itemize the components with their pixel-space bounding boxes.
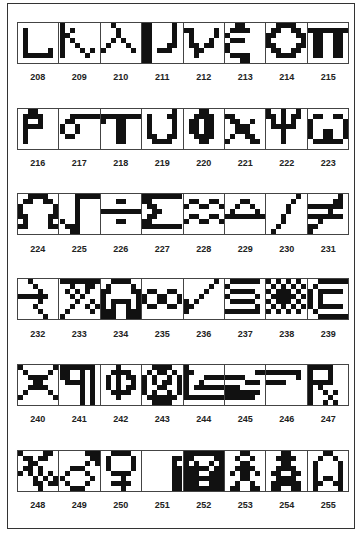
phi-alt-icon [101, 365, 141, 405]
code-label: 246 [266, 414, 308, 424]
copyright-icon [308, 279, 348, 319]
code-label: 211 [142, 72, 184, 82]
code-label-row: 216217218219220221222223 [17, 158, 349, 168]
glyph-cell-211 [142, 23, 183, 63]
code-label: 253 [225, 500, 267, 510]
glyph-cell-234 [101, 279, 142, 319]
glyph-cell-252 [184, 451, 225, 491]
code-label: 238 [266, 329, 308, 339]
checker-pattern-icon [266, 279, 306, 319]
glyph-cell-213 [225, 23, 266, 63]
logo-right-icon [266, 365, 306, 405]
logo-left-icon [184, 365, 224, 405]
code-label: 221 [225, 158, 267, 168]
glyph-cell-254 [266, 451, 307, 491]
glyph-cell-248 [18, 451, 59, 491]
glyph-cell-239 [308, 279, 348, 319]
glyph-row [17, 193, 349, 235]
code-label: 243 [142, 414, 184, 424]
code-label: 214 [266, 72, 308, 82]
code-label: 220 [183, 158, 225, 168]
code-label: 245 [225, 414, 267, 424]
glyph-cell-215 [308, 23, 348, 63]
not-equal-icon [308, 194, 348, 234]
omicron-icon [266, 23, 306, 63]
glyph-cell-233 [59, 279, 100, 319]
nu-icon [184, 23, 224, 63]
code-label: 222 [266, 158, 308, 168]
glyph-cell-232 [18, 279, 59, 319]
man-figure-icon [225, 451, 265, 491]
glyph-cell-208 [18, 23, 59, 63]
code-label: 252 [183, 500, 225, 510]
code-label-row: 240241242243244245246247 [17, 414, 349, 424]
code-label: 228 [183, 244, 225, 254]
glyph-row [17, 364, 349, 406]
tau-icon [101, 109, 141, 149]
arrow-left-staircase-icon [18, 279, 58, 319]
woman-figure-icon [266, 451, 306, 491]
spool-x-icon [18, 365, 58, 405]
code-label: 255 [308, 500, 350, 510]
male-sign-icon [60, 451, 100, 491]
code-label-row: 224225226227228229230231 [17, 244, 349, 254]
code-label: 250 [100, 500, 142, 510]
glyph-cell-224 [18, 194, 59, 234]
glyph-cell-230 [266, 194, 307, 234]
glyph-cell-235 [142, 279, 183, 319]
pilcrow-icon [60, 365, 100, 405]
code-label: 223 [308, 158, 350, 168]
code-label: 254 [266, 500, 308, 510]
code-label: 210 [100, 72, 142, 82]
glyph-cell-221 [225, 109, 266, 149]
glyph-cell-216 [18, 109, 59, 149]
division-icon [101, 194, 141, 234]
iota-like-hook-icon [18, 23, 58, 63]
code-label: 208 [17, 72, 59, 82]
glyph-cell-231 [308, 194, 348, 234]
code-label: 239 [308, 329, 350, 339]
glyph-row [17, 108, 349, 150]
code-label: 224 [17, 244, 59, 254]
logo-middle-icon [225, 365, 265, 405]
inverse-question-icon [184, 451, 224, 491]
spider-left-icon [18, 451, 58, 491]
sigma-icon [60, 109, 100, 149]
code-label: 225 [59, 244, 101, 254]
code-label: 218 [100, 158, 142, 168]
code-label: 234 [100, 329, 142, 339]
glyph-cell-228 [184, 194, 225, 234]
kappa-icon [60, 23, 100, 63]
code-label: 230 [266, 244, 308, 254]
code-label: 212 [183, 72, 225, 82]
glyph-cell-249 [59, 451, 100, 491]
glyph-cell-243 [142, 365, 183, 405]
code-label: 229 [225, 244, 267, 254]
glyph-cell-209 [59, 23, 100, 63]
code-label: 247 [308, 414, 350, 424]
code-label: 226 [100, 244, 142, 254]
code-label: 215 [308, 72, 350, 82]
rho-icon [18, 109, 58, 149]
code-label: 213 [225, 72, 267, 82]
glyph-cell-226 [101, 194, 142, 234]
check-mark-icon [184, 279, 224, 319]
percent-icon [60, 279, 100, 319]
glyph-cell-245 [225, 365, 266, 405]
Omega-icon [18, 194, 58, 234]
lambda-icon [101, 23, 141, 63]
code-label: 237 [225, 329, 267, 339]
glyph-cell-222 [266, 109, 307, 149]
triangle-icon [225, 194, 265, 234]
code-label-row: 248249250251252253254255 [17, 500, 349, 510]
xi-icon [225, 23, 265, 63]
code-label-row: 232233234235236237238239 [17, 329, 349, 339]
glyph-cell-212 [184, 23, 225, 63]
code-label: 219 [142, 158, 184, 168]
prescription-icon [308, 365, 348, 405]
Sigma-icon [142, 194, 182, 234]
omega-icon [308, 109, 348, 149]
approximately-equal-icon [184, 194, 224, 234]
code-label: 227 [142, 244, 184, 254]
glyph-cell-238 [266, 279, 307, 319]
